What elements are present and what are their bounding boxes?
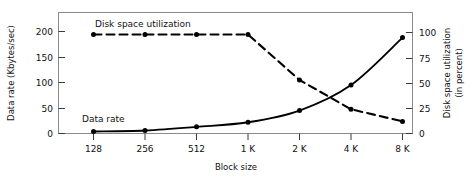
left-tick-label-3: 150 <box>36 53 53 63</box>
x-axis-ticks <box>94 134 403 141</box>
x-tick-label-1k: 1 K <box>241 144 257 154</box>
right-tick-label-1: 25 <box>419 104 430 114</box>
data-point-marker <box>91 129 96 134</box>
data-point-marker <box>400 35 405 40</box>
data-point-marker <box>349 83 354 88</box>
right-tick-label-3: 75 <box>419 54 430 64</box>
x-tick-label-256: 256 <box>136 144 153 154</box>
data-point-marker <box>194 32 199 37</box>
right-axis-title-line1: Disk space utilization <box>442 28 452 118</box>
data-point-marker <box>400 119 405 124</box>
data-point-marker <box>297 108 302 113</box>
left-axis-title: Data rate (Kbytes/sec) <box>6 25 16 121</box>
left-axis-tick-labels: 0 50 100 150 200 <box>36 27 53 139</box>
x-tick-label-512: 512 <box>188 144 205 154</box>
series-data-rate <box>91 35 405 134</box>
x-tick-label-4k: 4 K <box>344 144 360 154</box>
data-point-marker <box>297 77 302 82</box>
series-layer <box>91 32 405 134</box>
right-axis-ticks <box>406 33 413 134</box>
series-disk-space-utilization <box>91 32 405 124</box>
dual-axis-line-chart: 0 50 100 150 200 Data rate (Kbytes/sec) … <box>0 0 476 177</box>
data-point-marker <box>143 128 148 133</box>
right-axis-title-line2: (in percent) <box>454 48 464 98</box>
right-tick-label-2: 50 <box>419 79 431 89</box>
series-annotation-data-rate: Data rate <box>82 114 125 124</box>
data-point-marker <box>246 120 251 125</box>
x-tick-label-8k: 8 K <box>395 144 411 154</box>
left-tick-label-1: 50 <box>42 104 54 114</box>
right-tick-label-0: 0 <box>419 129 425 139</box>
left-tick-label-2: 100 <box>36 78 53 88</box>
series-line <box>94 38 403 132</box>
x-axis-tick-labels: 128 256 512 1 K 2 K 4 K 8 K <box>85 144 411 154</box>
series-annotation-disk-space-utilization: Disk space utilization <box>95 19 191 29</box>
left-tick-label-0: 0 <box>47 129 53 139</box>
data-point-marker <box>246 32 251 37</box>
data-point-marker <box>349 107 354 112</box>
left-axis-ticks <box>59 32 66 134</box>
chart-figure: 0 50 100 150 200 Data rate (Kbytes/sec) … <box>0 0 476 177</box>
data-point-marker <box>194 124 199 129</box>
data-point-marker <box>91 32 96 37</box>
x-tick-label-2k: 2 K <box>292 144 308 154</box>
right-axis-tick-labels: 0 25 50 75 100 <box>419 28 436 139</box>
right-tick-label-4: 100 <box>419 28 436 38</box>
series-line <box>94 35 403 122</box>
x-tick-label-128: 128 <box>85 144 102 154</box>
x-axis-title: Block size <box>215 162 257 172</box>
data-point-marker <box>143 32 148 37</box>
left-tick-label-4: 200 <box>36 27 53 37</box>
